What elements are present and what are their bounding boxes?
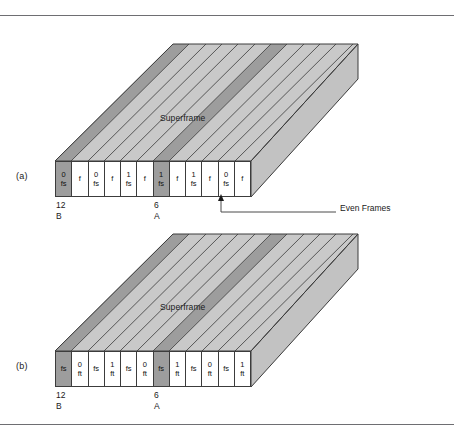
frame-cell-type: fs	[158, 364, 164, 374]
tick-number: 6	[154, 390, 160, 401]
frame-cell[interactable]: 1 ft	[105, 352, 121, 386]
frame-cell-bit: 0	[143, 360, 147, 370]
frame-cell-type: ft	[208, 369, 212, 379]
frame-cell-bit: 1	[240, 360, 244, 370]
frame-cell[interactable]: 1 ft	[235, 352, 250, 386]
frame-cell[interactable]: fs	[219, 352, 235, 386]
frame-cell[interactable]: fs	[121, 352, 137, 386]
frame-cell-type: ft	[240, 369, 244, 379]
tick-number: 12	[56, 390, 65, 401]
tick-letter: B	[56, 401, 65, 412]
frame-cell[interactable]: fs	[186, 352, 202, 386]
frame-cell[interactable]: 0 ft	[72, 352, 88, 386]
panel-b-frame-row: fs 0 ft fs 1 ft fs 0 ft	[55, 351, 251, 387]
frame-cell-bit: 1	[175, 360, 179, 370]
frame-cell-type: ft	[175, 369, 179, 379]
frame-cell[interactable]: fs	[56, 352, 72, 386]
frame-cell-type: fs	[223, 364, 229, 374]
frame-cell[interactable]: fs	[154, 352, 170, 386]
panel-b: (b)	[0, 224, 454, 437]
tick-label-12: 12 B	[56, 390, 65, 412]
frame-cell-type: fs	[126, 364, 132, 374]
frame-cell-type: ft	[110, 369, 114, 379]
figure-superframe-format: (a)	[0, 0, 454, 438]
frame-cell-bit: 0	[208, 360, 212, 370]
arrow-up-icon	[218, 194, 224, 201]
frame-cell[interactable]: 1 ft	[170, 352, 186, 386]
frame-cell-bit: 1	[110, 360, 114, 370]
panel-b-block-3d: Superframe	[0, 224, 454, 424]
frame-cell[interactable]: 0 ft	[137, 352, 153, 386]
frame-cell-type: fs	[61, 364, 67, 374]
frame-cell-type: fs	[191, 364, 197, 374]
frame-cell-type: ft	[143, 369, 147, 379]
panel-b-superframe-label: Superframe	[160, 302, 205, 312]
frame-cell[interactable]: fs	[89, 352, 105, 386]
frame-cell-type: ft	[78, 369, 82, 379]
even-frames-label: Even Frames	[340, 203, 391, 213]
panel-a: (a)	[0, 16, 454, 229]
frame-cell-bit: 0	[78, 360, 82, 370]
frame-cell[interactable]: 0 ft	[202, 352, 218, 386]
tick-letter: A	[154, 401, 160, 412]
frame-cell-type: fs	[93, 364, 99, 374]
panel-b-block-svg	[0, 224, 454, 424]
even-frames-leader-line	[0, 16, 454, 229]
tick-label-6: 6 A	[154, 390, 160, 412]
